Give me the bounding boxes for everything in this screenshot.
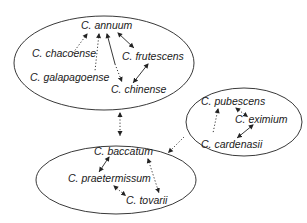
edge-annuum-chinense-dotted [115, 64, 122, 82]
species-label-frutescens: C. frutescens [122, 51, 184, 62]
species-label-chinense: C. chinense [111, 84, 166, 95]
edge-praetermissum-tovarii [114, 186, 126, 196]
capsicum-crossability-diagram: C. annuum C. chacoense C. frutescens C. … [0, 0, 307, 223]
species-label-galapagoense: C. galapagoense [30, 72, 109, 83]
edge-pubescens-baccatum [168, 137, 184, 153]
edge-annuum-chinense [107, 34, 115, 64]
species-label-pubescens: C. pubescens [201, 96, 265, 107]
diagram-canvas [0, 0, 307, 223]
species-label-praetermissum: C. praetermissum [68, 173, 151, 184]
edge-eximium-cardenasii [237, 125, 253, 138]
species-label-eximium: C. eximium [235, 114, 288, 125]
edge-annuum-frutescens [118, 33, 134, 48]
species-label-tovarii: C. tovarii [126, 195, 167, 206]
species-label-cardenasii: C. cardenasii [201, 139, 262, 150]
species-label-baccatum: C. baccatum [94, 146, 153, 157]
species-label-chacoense: C. chacoense [32, 48, 96, 59]
edge-frutescens-chinense [133, 64, 148, 83]
edge-baccatum-praetermissum [99, 157, 109, 172]
edge-pubescens-cardenasii [213, 109, 218, 133]
species-label-annuum: C. annuum [81, 20, 132, 31]
